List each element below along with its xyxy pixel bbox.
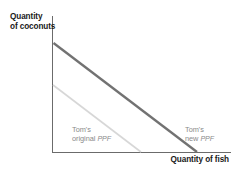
y-axis-title-line1: Quantity (10, 12, 42, 21)
y-axis-title: Quantity of coconuts (10, 12, 55, 31)
annotation-new-line1: Tom's (185, 125, 204, 134)
x-axis-title-text: Quantity of fish (171, 155, 229, 164)
annotation-original-line1: Tom's (72, 125, 91, 134)
x-axis-title: Quantity of fish (171, 155, 229, 165)
ppf-figure: Quantity of coconuts Quantity of fish To… (0, 0, 232, 173)
annotation-new-ppf-abbr: PPF (200, 135, 214, 143)
annotation-new-ppf: Tom's new PPF (185, 126, 214, 143)
annotation-original-ppf: Tom's original PPF (72, 126, 111, 143)
annotation-new-line2-prefix: new (185, 134, 200, 143)
annotation-original-line2-prefix: original (72, 134, 97, 143)
y-axis-title-line2: of coconuts (10, 22, 55, 31)
annotation-original-ppf-abbr: PPF (97, 135, 111, 143)
